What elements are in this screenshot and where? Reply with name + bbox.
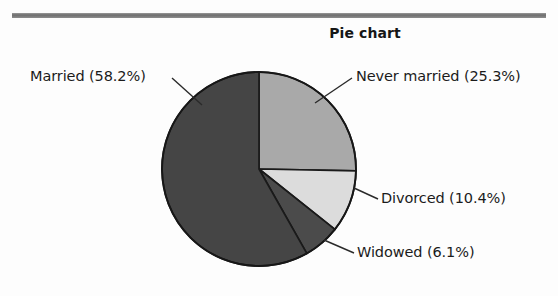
pie-slice-never-married[interactable]	[259, 72, 356, 171]
pie-chart-figure: Pie chart Married (58.2%) Never married …	[0, 0, 558, 296]
pie-label-divorced: Divorced (10.4%)	[381, 190, 506, 206]
pie-label-never-married: Never married (25.3%)	[356, 68, 521, 84]
leader-line-divorced	[354, 188, 378, 199]
leader-line-married	[172, 78, 202, 105]
pie-label-widowed: Widowed (6.1%)	[357, 244, 474, 260]
leader-line-never-married	[315, 78, 352, 103]
pie-label-married: Married (58.2%)	[30, 68, 146, 84]
leader-line-widowed	[324, 240, 354, 253]
